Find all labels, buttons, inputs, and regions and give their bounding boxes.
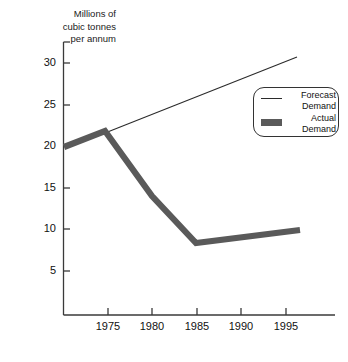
y-tick-label-20: 20 bbox=[26, 139, 56, 151]
y-axis-ticks bbox=[64, 42, 71, 271]
y-tick-label-10: 10 bbox=[26, 222, 56, 234]
x-tick-label-1990: 1990 bbox=[221, 320, 261, 332]
chart-legend: Forecast Demand Actual Demand bbox=[253, 87, 339, 137]
x-tick-label-1980: 1980 bbox=[132, 320, 172, 332]
series-actual-demand bbox=[64, 131, 300, 243]
legend-label-actual-demand: Actual Demand bbox=[284, 113, 336, 134]
y-tick-label-25: 25 bbox=[26, 98, 56, 110]
forecast-line-swatch-icon bbox=[261, 98, 282, 99]
y-tick-label-30: 30 bbox=[26, 56, 56, 68]
legend-item-actual-demand: Actual Demand bbox=[254, 112, 340, 137]
legend-item-forecast-demand: Forecast Demand bbox=[254, 89, 340, 114]
chart-container: Millions of cubic tonnes per annum bbox=[0, 0, 348, 362]
y-tick-label-15: 15 bbox=[26, 181, 56, 193]
x-axis-ticks bbox=[108, 308, 286, 315]
x-tick-label-1985: 1985 bbox=[177, 320, 217, 332]
x-tick-label-1975: 1975 bbox=[88, 320, 128, 332]
legend-label-forecast-demand: Forecast Demand bbox=[284, 90, 336, 111]
actual-bar-swatch-icon bbox=[261, 119, 282, 126]
y-tick-label-5: 5 bbox=[26, 264, 56, 276]
x-tick-label-1995: 1995 bbox=[266, 320, 306, 332]
